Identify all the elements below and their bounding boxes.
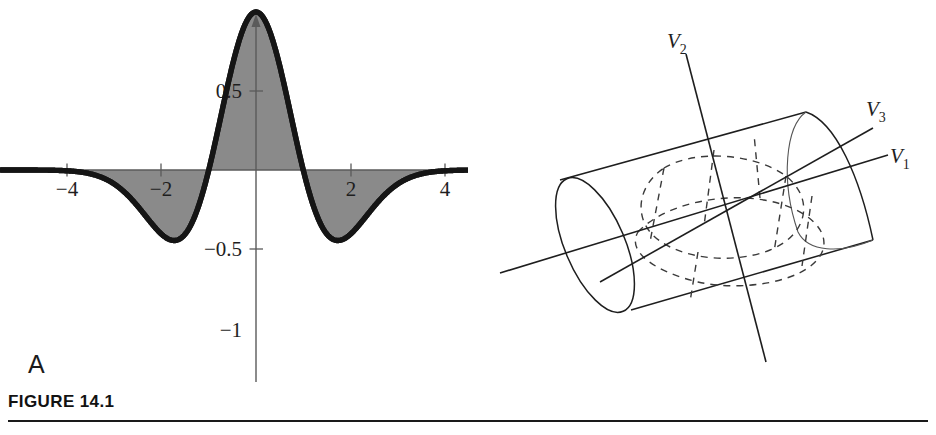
figure-caption: FIGURE 14.1 <box>8 392 114 412</box>
cylinder-bottom-edge <box>631 240 873 310</box>
dashed-edge-5 <box>690 252 698 302</box>
x-tick-label-4: 4 <box>440 177 451 201</box>
dashed-edge-6 <box>754 134 760 198</box>
cylinder-top-edge <box>560 112 806 180</box>
cylinder-left-cap <box>539 167 650 323</box>
y-tick-label--0.5: −0.5 <box>204 237 242 261</box>
cylinder-right-cap-front <box>806 112 873 240</box>
panel-label-a: A <box>28 352 45 377</box>
axis-line-v2 <box>686 54 766 362</box>
panel-b: V2 V3 V1 B <box>468 0 936 390</box>
wavelet-chart-svg: −4 −2 2 4 0.5 −0.5 −1 <box>0 0 468 390</box>
dashed-cross-section-1 <box>641 156 804 258</box>
dashed-cross-section-2 <box>635 198 824 286</box>
caption-divider-rule <box>8 420 928 422</box>
figure-page: −4 −2 2 4 0.5 −0.5 −1 A <box>0 0 936 435</box>
inscribed-dashed-structure <box>635 134 824 302</box>
dashed-edge-3 <box>704 150 714 226</box>
panel-a: −4 −2 2 4 0.5 −0.5 −1 A <box>0 0 468 390</box>
axis-label-v1: V1 <box>890 144 910 172</box>
x-tick-label--2: −2 <box>150 177 172 201</box>
axis-label-v2: V2 <box>667 29 687 57</box>
y-tick-label--1: −1 <box>220 318 242 342</box>
dashed-edge-4 <box>802 196 812 266</box>
x-tick-label-2: 2 <box>346 177 357 201</box>
axis-label-v3: V3 <box>866 97 886 125</box>
x-tick-label--4: −4 <box>56 177 79 201</box>
cylinder-right-cap-back <box>787 112 873 249</box>
cylinder-diagram-svg: V2 V3 V1 <box>468 0 936 390</box>
